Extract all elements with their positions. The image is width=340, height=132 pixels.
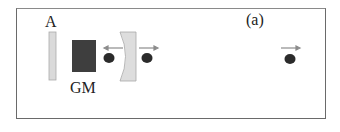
plate-a <box>49 32 56 80</box>
particle-ball-3 <box>285 54 296 64</box>
arrow-left-icon <box>104 46 123 50</box>
arrow-right-icon <box>281 46 300 50</box>
concave-mirror <box>120 32 136 81</box>
arrow-right-icon <box>139 46 158 50</box>
particle-ball-1 <box>104 53 115 63</box>
gm-block <box>72 40 96 72</box>
label-a: A <box>45 14 57 30</box>
panel-label: (a) <box>246 12 264 28</box>
label-gm: GM <box>70 80 96 96</box>
particle-ball-2 <box>142 53 153 63</box>
